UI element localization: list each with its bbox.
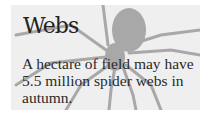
card-text: A hectare of field may have 5.5 million … [22, 55, 200, 106]
fact-card: Webs A hectare of field may have 5.5 mil… [11, 5, 200, 110]
card-title: Webs [23, 14, 78, 38]
